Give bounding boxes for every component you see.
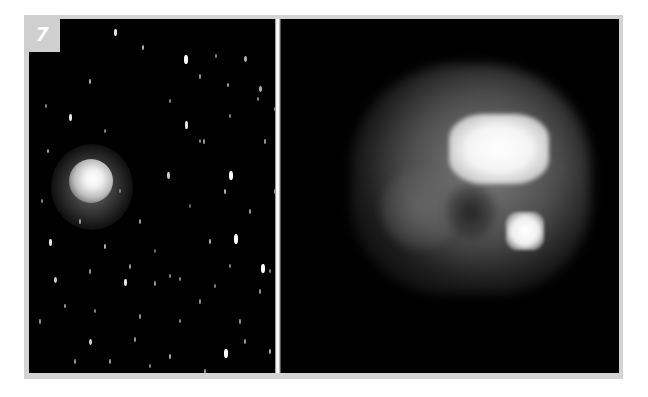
- star: [79, 219, 81, 224]
- star: [124, 279, 127, 286]
- star: [184, 55, 188, 64]
- star: [229, 114, 231, 118]
- star: [224, 189, 226, 194]
- star: [229, 171, 233, 180]
- star: [104, 129, 106, 133]
- star: [179, 277, 181, 281]
- star: [269, 269, 271, 273]
- closeup-dark-notch: [446, 184, 496, 239]
- star: [149, 364, 151, 368]
- star: [49, 239, 52, 246]
- star: [244, 56, 247, 62]
- closeup-bright-spot: [506, 212, 544, 250]
- star: [229, 264, 231, 268]
- star: [54, 277, 57, 283]
- star: [89, 269, 91, 274]
- star: [227, 83, 229, 87]
- star: [199, 299, 201, 304]
- star: [169, 274, 171, 278]
- star: [261, 264, 265, 273]
- star: [89, 339, 92, 345]
- star: [185, 121, 188, 129]
- comet-wide-field-panel: [29, 19, 275, 373]
- star: [204, 369, 206, 373]
- star: [134, 337, 136, 342]
- star: [45, 104, 47, 108]
- star: [249, 209, 251, 214]
- star: [209, 239, 211, 244]
- star: [104, 244, 106, 249]
- star: [259, 86, 262, 92]
- star: [244, 339, 246, 344]
- star: [224, 349, 228, 358]
- closeup-bright-lobe: [449, 114, 549, 184]
- star: [199, 74, 201, 79]
- star: [142, 45, 144, 50]
- star: [94, 309, 96, 313]
- star: [139, 219, 141, 224]
- star: [259, 289, 261, 294]
- star: [64, 304, 66, 308]
- star: [129, 264, 131, 269]
- star: [41, 199, 43, 203]
- star: [189, 204, 191, 208]
- star: [169, 99, 171, 103]
- star: [119, 189, 121, 193]
- star: [47, 149, 49, 153]
- star: [74, 359, 76, 364]
- star: [154, 281, 156, 286]
- star: [154, 249, 156, 253]
- star: [257, 97, 259, 101]
- star: [167, 172, 170, 179]
- star: [203, 139, 205, 144]
- star: [269, 349, 271, 354]
- figure-label: 7: [35, 23, 48, 45]
- star: [234, 234, 238, 244]
- comet-closeup-panel: [281, 19, 619, 373]
- star: [169, 354, 171, 359]
- star: [114, 29, 117, 36]
- star: [215, 54, 217, 58]
- star: [239, 319, 241, 324]
- comet-nucleus: [69, 159, 113, 203]
- star: [139, 314, 141, 319]
- star: [214, 284, 216, 288]
- figure-label-badge: 7: [24, 15, 60, 52]
- star: [199, 139, 201, 143]
- star: [69, 114, 72, 121]
- star: [109, 359, 111, 364]
- star: [39, 319, 41, 324]
- star: [264, 139, 266, 144]
- star: [179, 319, 181, 323]
- star: [89, 79, 91, 84]
